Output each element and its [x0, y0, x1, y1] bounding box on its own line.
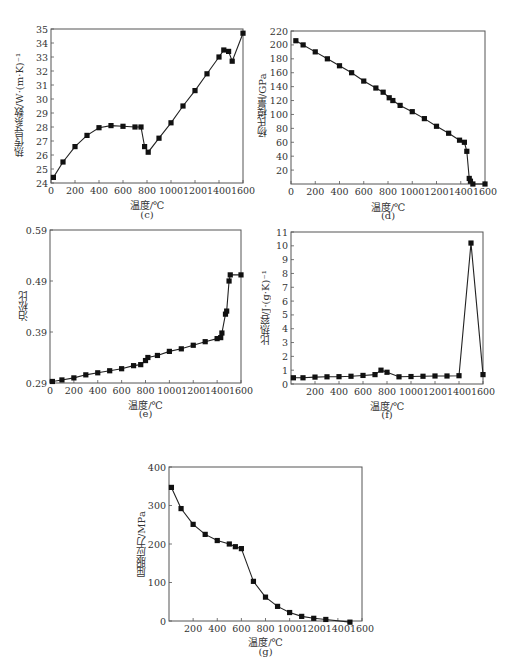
chart-g-yield-stress: 2004006008001000120014001600010020030040…: [0, 0, 511, 666]
y-tick-label: 400: [148, 462, 166, 473]
data-point-marker: [169, 485, 174, 490]
data-point-marker: [287, 610, 292, 615]
data-point-marker: [299, 614, 304, 619]
x-tick-label: 400: [208, 623, 226, 634]
y-tick-label: 300: [148, 500, 166, 511]
data-point-marker: [263, 595, 268, 600]
data-point-marker: [251, 579, 256, 584]
x-tick-label: 1600: [350, 623, 374, 634]
data-point-marker: [203, 532, 208, 537]
panel-label-g: (g): [169, 646, 362, 657]
plot-area-g: 2004006008001000120014001600010020030040…: [0, 0, 511, 666]
data-point-marker: [311, 616, 316, 621]
x-tick-label: 800: [256, 623, 274, 634]
y-axis-label-g: 屈服应力/MPa: [134, 467, 149, 621]
data-point-marker: [191, 522, 196, 527]
data-point-marker: [239, 546, 244, 551]
y-tick-label: 100: [148, 577, 166, 588]
x-tick-label: 1400: [326, 623, 350, 634]
y-tick-label: 200: [148, 539, 166, 550]
data-point-marker: [215, 538, 220, 543]
data-point-marker: [178, 506, 183, 511]
x-tick-label: 1000: [278, 623, 302, 634]
y-tick-label: 0: [160, 616, 166, 627]
data-point-marker: [233, 544, 238, 549]
data-point-marker: [275, 604, 280, 609]
data-line: [171, 487, 350, 622]
x-tick-label: 1200: [302, 623, 326, 634]
x-tick-label: 600: [232, 623, 250, 634]
data-point-marker: [347, 620, 352, 625]
data-point-marker: [323, 617, 328, 622]
x-tick-label: 200: [184, 623, 202, 634]
data-point-marker: [227, 541, 232, 546]
